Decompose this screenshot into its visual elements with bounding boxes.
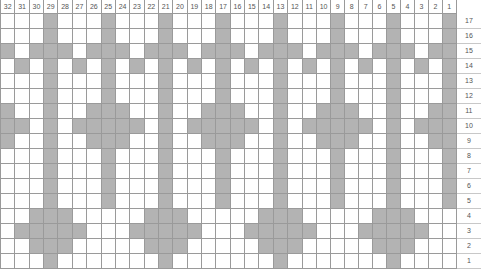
chart-cell-r12-c20[interactable] bbox=[173, 89, 187, 104]
chart-cell-r14-c2[interactable] bbox=[428, 59, 442, 74]
chart-cell-r15-c24[interactable] bbox=[115, 44, 129, 59]
chart-cell-r17-c2[interactable] bbox=[428, 14, 442, 29]
chart-cell-r14-c10[interactable] bbox=[316, 59, 330, 74]
chart-cell-r10-c1[interactable] bbox=[442, 119, 456, 134]
chart-cell-r15-c6[interactable] bbox=[373, 44, 387, 59]
chart-cell-r6-c20[interactable] bbox=[173, 179, 187, 194]
chart-cell-r7-c28[interactable] bbox=[58, 164, 72, 179]
chart-cell-r14-c6[interactable] bbox=[373, 59, 387, 74]
chart-cell-r17-c24[interactable] bbox=[115, 14, 129, 29]
chart-cell-r16-c8[interactable] bbox=[345, 29, 359, 44]
chart-cell-r5-c31[interactable] bbox=[15, 194, 29, 209]
chart-cell-r5-c23[interactable] bbox=[130, 194, 144, 209]
chart-cell-r12-c27[interactable] bbox=[72, 89, 86, 104]
chart-cell-r11-c25[interactable] bbox=[101, 104, 115, 119]
chart-cell-r5-c22[interactable] bbox=[144, 194, 158, 209]
chart-cell-r14-c13[interactable] bbox=[273, 59, 287, 74]
chart-cell-r12-c11[interactable] bbox=[302, 89, 316, 104]
chart-cell-r15-c23[interactable] bbox=[130, 44, 144, 59]
chart-cell-r6-c29[interactable] bbox=[44, 179, 58, 194]
chart-cell-r15-c16[interactable] bbox=[230, 44, 244, 59]
chart-cell-r15-c2[interactable] bbox=[428, 44, 442, 59]
chart-cell-r4-c8[interactable] bbox=[345, 209, 359, 224]
chart-cell-r7-c18[interactable] bbox=[202, 164, 216, 179]
chart-cell-r1-c5[interactable] bbox=[387, 254, 401, 269]
chart-cell-r1-c10[interactable] bbox=[316, 254, 330, 269]
chart-cell-r7-c3[interactable] bbox=[414, 164, 428, 179]
chart-cell-r2-c19[interactable] bbox=[187, 239, 201, 254]
chart-cell-r17-c6[interactable] bbox=[373, 14, 387, 29]
chart-cell-r3-c8[interactable] bbox=[345, 224, 359, 239]
chart-cell-r16-c11[interactable] bbox=[302, 29, 316, 44]
chart-cell-r16-c20[interactable] bbox=[173, 29, 187, 44]
chart-cell-r11-c27[interactable] bbox=[72, 104, 86, 119]
chart-cell-r9-c10[interactable] bbox=[316, 134, 330, 149]
chart-cell-r3-c12[interactable] bbox=[288, 224, 302, 239]
chart-cell-r6-c6[interactable] bbox=[373, 179, 387, 194]
chart-cell-r4-c15[interactable] bbox=[245, 209, 259, 224]
chart-cell-r3-c29[interactable] bbox=[44, 224, 58, 239]
chart-cell-r17-c19[interactable] bbox=[187, 14, 201, 29]
chart-cell-r17-c14[interactable] bbox=[259, 14, 273, 29]
chart-cell-r15-c5[interactable] bbox=[387, 44, 401, 59]
chart-cell-r14-c18[interactable] bbox=[202, 59, 216, 74]
chart-cell-r4-c6[interactable] bbox=[373, 209, 387, 224]
chart-cell-r10-c7[interactable] bbox=[359, 119, 373, 134]
chart-cell-r12-c24[interactable] bbox=[115, 89, 129, 104]
chart-cell-r8-c17[interactable] bbox=[216, 149, 230, 164]
chart-cell-r10-c20[interactable] bbox=[173, 119, 187, 134]
chart-cell-r10-c11[interactable] bbox=[302, 119, 316, 134]
chart-cell-r12-c7[interactable] bbox=[359, 89, 373, 104]
chart-cell-r10-c32[interactable] bbox=[1, 119, 15, 134]
chart-cell-r13-c23[interactable] bbox=[130, 74, 144, 89]
chart-cell-r6-c3[interactable] bbox=[414, 179, 428, 194]
chart-cell-r16-c6[interactable] bbox=[373, 29, 387, 44]
chart-cell-r9-c22[interactable] bbox=[144, 134, 158, 149]
chart-cell-r4-c31[interactable] bbox=[15, 209, 29, 224]
chart-cell-r13-c15[interactable] bbox=[245, 74, 259, 89]
chart-cell-r1-c30[interactable] bbox=[29, 254, 43, 269]
chart-cell-r12-c3[interactable] bbox=[414, 89, 428, 104]
chart-cell-r6-c18[interactable] bbox=[202, 179, 216, 194]
chart-cell-r17-c15[interactable] bbox=[245, 14, 259, 29]
chart-cell-r11-c2[interactable] bbox=[428, 104, 442, 119]
chart-cell-r17-c28[interactable] bbox=[58, 14, 72, 29]
chart-cell-r14-c5[interactable] bbox=[387, 59, 401, 74]
chart-cell-r2-c12[interactable] bbox=[288, 239, 302, 254]
chart-cell-r4-c28[interactable] bbox=[58, 209, 72, 224]
chart-cell-r9-c14[interactable] bbox=[259, 134, 273, 149]
chart-cell-r13-c17[interactable] bbox=[216, 74, 230, 89]
chart-cell-r1-c32[interactable] bbox=[1, 254, 15, 269]
chart-cell-r17-c11[interactable] bbox=[302, 14, 316, 29]
chart-cell-r13-c20[interactable] bbox=[173, 74, 187, 89]
chart-cell-r7-c27[interactable] bbox=[72, 164, 86, 179]
chart-cell-r13-c2[interactable] bbox=[428, 74, 442, 89]
chart-cell-r9-c20[interactable] bbox=[173, 134, 187, 149]
chart-cell-r11-c8[interactable] bbox=[345, 104, 359, 119]
chart-cell-r14-c8[interactable] bbox=[345, 59, 359, 74]
chart-cell-r10-c28[interactable] bbox=[58, 119, 72, 134]
chart-cell-r14-c22[interactable] bbox=[144, 59, 158, 74]
chart-cell-r3-c16[interactable] bbox=[230, 224, 244, 239]
chart-cell-r9-c13[interactable] bbox=[273, 134, 287, 149]
chart-cell-r1-c4[interactable] bbox=[400, 254, 414, 269]
chart-cell-r17-c7[interactable] bbox=[359, 14, 373, 29]
chart-cell-r10-c8[interactable] bbox=[345, 119, 359, 134]
chart-cell-r16-c19[interactable] bbox=[187, 29, 201, 44]
chart-cell-r4-c5[interactable] bbox=[387, 209, 401, 224]
chart-cell-r10-c29[interactable] bbox=[44, 119, 58, 134]
chart-cell-r1-c27[interactable] bbox=[72, 254, 86, 269]
chart-cell-r8-c7[interactable] bbox=[359, 149, 373, 164]
chart-cell-r11-c3[interactable] bbox=[414, 104, 428, 119]
chart-cell-r7-c11[interactable] bbox=[302, 164, 316, 179]
chart-cell-r5-c10[interactable] bbox=[316, 194, 330, 209]
chart-cell-r4-c9[interactable] bbox=[331, 209, 345, 224]
chart-cell-r9-c17[interactable] bbox=[216, 134, 230, 149]
chart-cell-r11-c22[interactable] bbox=[144, 104, 158, 119]
chart-cell-r5-c17[interactable] bbox=[216, 194, 230, 209]
chart-cell-r1-c29[interactable] bbox=[44, 254, 58, 269]
chart-cell-r3-c20[interactable] bbox=[173, 224, 187, 239]
chart-cell-r11-c6[interactable] bbox=[373, 104, 387, 119]
chart-cell-r16-c3[interactable] bbox=[414, 29, 428, 44]
chart-cell-r8-c23[interactable] bbox=[130, 149, 144, 164]
